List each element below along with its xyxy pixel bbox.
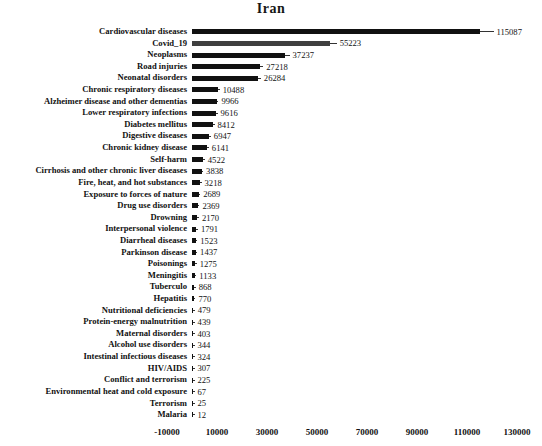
bar-row: Meningitis 1133 xyxy=(0,270,542,282)
value-label: 10488 xyxy=(223,85,244,95)
x-tick-label: 110000 xyxy=(454,427,481,437)
bar-group: 324 xyxy=(192,351,210,363)
x-tick-label: 70000 xyxy=(356,427,379,437)
bar-row: Hepatitis 770 xyxy=(0,293,542,305)
bar-row: Exposure to forces of nature 2689 xyxy=(0,189,542,201)
bar xyxy=(192,41,330,46)
value-label: 12 xyxy=(198,410,207,420)
value-label: 2170 xyxy=(202,213,219,223)
bar-group: 1523 xyxy=(192,235,217,247)
bar-group: 868 xyxy=(192,281,212,293)
bar-group: 9616 xyxy=(192,107,238,119)
bar xyxy=(192,169,202,174)
category-label: HIV/AIDS xyxy=(0,363,192,375)
bar-group: 9966 xyxy=(192,96,239,108)
value-label: 770 xyxy=(198,294,211,304)
whisker-line xyxy=(194,287,196,288)
bar-group: 307 xyxy=(192,363,210,375)
value-label: 2689 xyxy=(203,189,220,199)
bar-group: 3218 xyxy=(192,177,222,189)
bar-row: Terrorism 25 xyxy=(0,398,542,410)
value-label: 67 xyxy=(198,387,207,397)
whisker-line xyxy=(193,356,195,357)
bar-group: 10488 xyxy=(192,84,244,96)
category-label: Interpersonal violence xyxy=(0,223,192,235)
value-label: 324 xyxy=(198,352,211,362)
bar-row: Neoplasms 37237 xyxy=(0,49,542,61)
bar xyxy=(192,64,260,69)
value-label: 25 xyxy=(198,398,207,408)
bar xyxy=(192,122,213,127)
whisker-line xyxy=(285,55,289,56)
category-label: Terrorism xyxy=(0,398,192,410)
bar-row: Covid_19 55223 xyxy=(0,38,542,50)
value-label: 4522 xyxy=(208,155,225,165)
category-label: Poisonings xyxy=(0,258,192,270)
category-label: Diabetes mellitus xyxy=(0,119,192,131)
whisker-line xyxy=(480,31,494,32)
whisker-line xyxy=(193,368,195,369)
value-label: 1437 xyxy=(200,247,217,257)
bar-row: Diabetes mellitus 8412 xyxy=(0,119,542,131)
value-label: 2369 xyxy=(202,201,219,211)
value-label: 1523 xyxy=(200,236,217,246)
category-label: Digestive diseases xyxy=(0,130,192,142)
bar-row: Drowning 2170 xyxy=(0,212,542,224)
category-label: Conflict and terrorism xyxy=(0,374,192,386)
whisker-line xyxy=(213,124,215,125)
category-label: Alcohol use disorders xyxy=(0,339,192,351)
whisker-line xyxy=(195,275,197,276)
whisker-line xyxy=(200,182,202,183)
whisker-line xyxy=(198,205,200,206)
value-label: 1275 xyxy=(200,259,217,269)
x-tick-label: 90000 xyxy=(406,427,429,437)
bar-group: 1275 xyxy=(192,258,217,270)
x-tick-label: 30000 xyxy=(256,427,279,437)
x-axis: -100001000030000500007000090000110000130… xyxy=(0,427,542,441)
bar xyxy=(192,134,209,139)
bar-row: Drug use disorders 2369 xyxy=(0,200,542,212)
category-label: Maternal disorders xyxy=(0,328,192,340)
whisker-line xyxy=(193,403,195,404)
bar-group: 3838 xyxy=(192,165,223,177)
value-label: 55223 xyxy=(340,38,361,48)
bar xyxy=(192,180,200,185)
whisker-line xyxy=(216,113,218,114)
category-label: Intestinal infectious diseases xyxy=(0,351,192,363)
category-label: Nutritional deficiencies xyxy=(0,305,192,317)
bar-row: Digestive diseases 6947 xyxy=(0,130,542,142)
bar-group: 4522 xyxy=(192,154,225,166)
bar-row: Parkinson disease 1437 xyxy=(0,247,542,259)
whisker-line xyxy=(217,101,219,102)
bar-group: 6141 xyxy=(192,142,229,154)
whisker-line xyxy=(193,345,195,346)
bar-row: Cirrhosis and other chronic liver diseas… xyxy=(0,165,542,177)
bar-row: Poisonings 1275 xyxy=(0,258,542,270)
value-label: 3838 xyxy=(206,166,223,176)
whisker-line xyxy=(193,391,195,392)
bar-group: 1437 xyxy=(192,247,217,259)
value-label: 27218 xyxy=(266,62,287,72)
value-label: 6947 xyxy=(214,131,231,141)
value-label: 225 xyxy=(198,375,211,385)
plot-area: Cardiovascular diseases 115087 Covid_19 … xyxy=(0,26,542,421)
category-label: Chronic respiratory diseases xyxy=(0,84,192,96)
bar-group: 2689 xyxy=(192,189,220,201)
bar-row: Malaria 12 xyxy=(0,409,542,421)
category-label: Diarrheal diseases xyxy=(0,235,192,247)
category-label: Self-harm xyxy=(0,154,192,166)
value-label: 403 xyxy=(198,329,211,339)
bar-group: 403 xyxy=(192,328,210,340)
x-tick-label: 130000 xyxy=(504,427,531,437)
whisker-line xyxy=(196,229,198,230)
bar-row: Cardiovascular diseases 115087 xyxy=(0,26,542,38)
bar xyxy=(192,87,218,92)
category-label: Road injuries xyxy=(0,61,192,73)
category-label: Meningitis xyxy=(0,270,192,282)
whisker-line xyxy=(199,194,201,195)
category-label: Exposure to forces of nature xyxy=(0,189,192,201)
bar-row: Lower respiratory infections 9616 xyxy=(0,107,542,119)
x-tick-label: 50000 xyxy=(306,427,329,437)
bar xyxy=(192,29,480,34)
whisker-line xyxy=(203,159,205,160)
